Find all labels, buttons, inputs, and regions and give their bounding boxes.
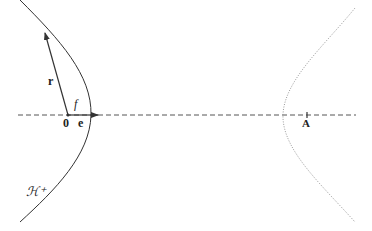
label-A: A: [302, 117, 310, 129]
label-f: f: [74, 97, 79, 111]
label-r: r: [48, 74, 54, 88]
label-H-plus: ℋ⁺: [26, 184, 47, 199]
label-origin: 0: [63, 116, 69, 130]
label-e: e: [78, 116, 84, 130]
hyperbola-diagram: r 0 e f ℋ⁺ A: [0, 0, 372, 231]
